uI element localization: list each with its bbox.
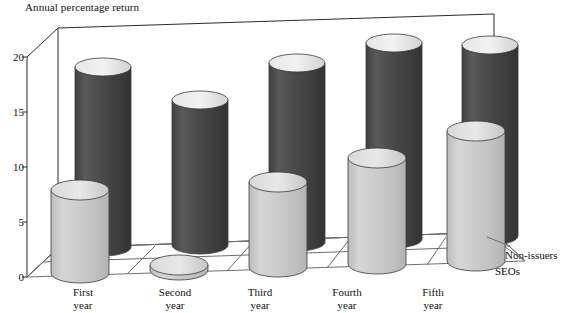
legend-leader-seos — [505, 247, 525, 261]
chart-plot-area — [0, 0, 564, 313]
chart-container: Annual percentage return 0 5 10 15 20 Fi… — [0, 0, 564, 313]
bar-non-issuers-second-year — [172, 91, 228, 254]
bar-seos-fourth-year — [348, 148, 406, 274]
bar-seos-second-year — [150, 255, 208, 280]
bar-seos-first-year — [51, 180, 109, 283]
bar-seos-third-year — [249, 172, 307, 277]
bar-seos-fifth-year — [447, 121, 505, 271]
